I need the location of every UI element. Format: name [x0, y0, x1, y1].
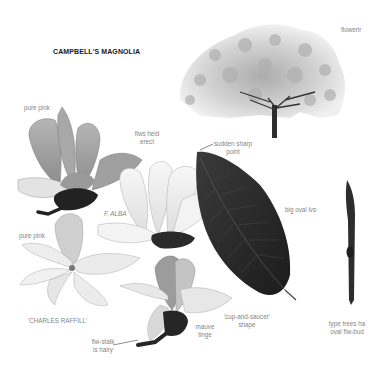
annotation-flw-stalk-hairy: flw-stalk is hairy: [88, 338, 118, 354]
annotation-line: 'cup-and-saucer': [218, 313, 276, 321]
annotation-pure-pink-top: pure pink: [24, 104, 50, 112]
annotation-pure-pink-bottom: pure pink: [19, 232, 45, 240]
annotation-line: shape: [218, 321, 276, 329]
annotation-line: oval flw-bud: [324, 328, 370, 336]
annotation-line: mauve: [192, 323, 218, 331]
annotation-type-trees-bud: type trees ha oval flw-bud: [324, 320, 370, 336]
annotation-big-oval-lvs: big oval lvs: [285, 206, 316, 214]
annotation-mauve-tinge: mauve tinge: [192, 323, 218, 339]
annotation-line: erect: [132, 138, 162, 146]
annotation-line: sudden sharp: [213, 140, 253, 148]
caption-flowering: flowerir: [341, 26, 361, 34]
page-title: CAMPBELL'S MAGNOLIA: [53, 48, 140, 55]
annotation-line: type trees ha: [324, 320, 370, 328]
annotation-sudden-sharp-point: sudden sharp point: [213, 140, 253, 156]
field-guide-page: CAMPBELL'S MAGNOLIA flowerir pure pink f…: [0, 0, 370, 366]
annotation-line: flws held: [132, 130, 162, 138]
annotation-flws-held-erect: flws held erect: [132, 130, 162, 146]
leaf-illustration: [196, 144, 296, 300]
annotation-line: tinge: [192, 331, 218, 339]
flower-bud-twig-illustration: [346, 180, 355, 305]
flowering-tree-illustration: [180, 25, 345, 138]
annotation-line: flw-stalk: [88, 338, 118, 346]
annotation-line: point: [213, 148, 253, 156]
annotation-f-alba: F. ALBA: [104, 210, 126, 218]
caption-charles-raffill: 'CHARLES RAFFILL': [28, 317, 87, 325]
annotation-line: is hairy: [88, 346, 118, 354]
annotation-cup-and-saucer-shape: 'cup-and-saucer' shape: [218, 313, 276, 329]
